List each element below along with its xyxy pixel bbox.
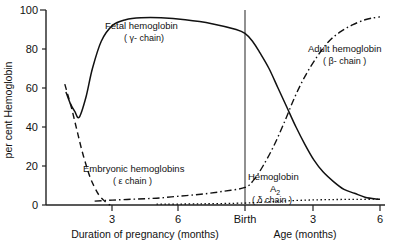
y-axis-title: per cent Hemoglobin	[2, 61, 14, 158]
x-tick-label-preg-3: 3	[109, 213, 115, 225]
annotation-fetal: Fetal hemoglobin ( γ- chain)	[105, 20, 178, 43]
y-tick-label-0: 0	[32, 199, 38, 211]
x-tick-label-birth: Birth	[234, 213, 257, 225]
curve-embryonic-hemoglobins	[65, 84, 110, 205]
annotation-embryonic-line2: ( ε chain )	[113, 176, 152, 186]
hemoglobin-switching-chart: 100 80 60 40 20 0 3 6 Birth 3 6 Duration…	[0, 0, 394, 243]
annotation-hemoglobin-a2: Hemoglobin A2 ( δ chain )	[248, 171, 299, 205]
x-axis-title-right: Age (months)	[273, 228, 336, 240]
annotation-a2-line3: ( δ chain )	[252, 195, 292, 205]
x-tick-marks	[112, 205, 380, 211]
annotation-adult-line1: Adult hemoglobin	[308, 43, 381, 54]
chart-canvas: 100 80 60 40 20 0 3 6 Birth 3 6 Duration…	[0, 0, 394, 243]
y-tick-label-20: 20	[26, 160, 38, 172]
x-axis-title-left: Duration of pregnancy (months)	[71, 228, 219, 240]
y-tick-label-100: 100	[20, 4, 38, 16]
x-tick-label-age-6: 6	[377, 213, 383, 225]
annotation-adult-line2: ( β- chain )	[323, 56, 366, 66]
y-tick-label-60: 60	[26, 82, 38, 94]
annotation-fetal-line2: ( γ- chain)	[124, 33, 164, 43]
x-tick-label-age-3: 3	[310, 213, 316, 225]
axes-group	[46, 10, 385, 205]
annotation-fetal-line1: Fetal hemoglobin	[105, 20, 178, 31]
y-tick-label-80: 80	[26, 43, 38, 55]
annotation-a2-line1: Hemoglobin	[248, 171, 299, 182]
annotation-embryonic: Embryonic hemoglobins ( ε chain )	[83, 163, 185, 186]
y-tick-marks	[40, 10, 46, 205]
y-tick-label-40: 40	[26, 121, 38, 133]
annotation-embryonic-line1: Embryonic hemoglobins	[83, 163, 185, 174]
x-tick-label-preg-6: 6	[175, 213, 181, 225]
